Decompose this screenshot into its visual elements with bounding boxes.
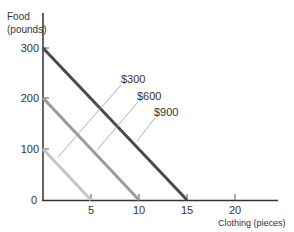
y-axis-label-line1: Food <box>7 11 30 22</box>
annotation-300: $300 <box>121 73 145 85</box>
annotation-600: $600 <box>137 90 161 102</box>
budget-line-600 <box>43 98 139 200</box>
x-tick-20: 20 <box>229 204 241 216</box>
y-tick-200: 200 <box>21 92 39 104</box>
x-tick-15: 15 <box>181 204 193 216</box>
x-tick-10: 10 <box>133 204 145 216</box>
x-axis-label: Clothing (pieces) <box>218 218 286 228</box>
y-tick-100: 100 <box>21 143 39 155</box>
x-tick-5: 5 <box>88 204 94 216</box>
annotation-900: $900 <box>154 106 178 118</box>
y-axis-label-line2: (pounds) <box>7 24 46 35</box>
leader-line-900 <box>137 118 155 141</box>
y-tick-300: 300 <box>21 42 39 54</box>
budget-line-300 <box>43 149 91 200</box>
origin-label: 0 <box>31 194 37 206</box>
budget-line-900 <box>43 48 187 200</box>
x-ticks <box>91 194 235 200</box>
budget-line-chart: Food (pounds) 300 200 100 0 5 10 15 20 C… <box>0 0 294 232</box>
